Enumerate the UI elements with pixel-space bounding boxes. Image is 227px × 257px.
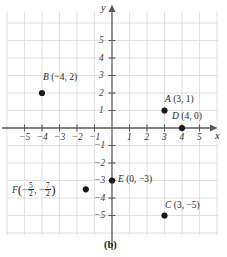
- x-tick-label-4: 4: [180, 133, 185, 143]
- data-point-C: [161, 212, 167, 218]
- point-label-D-name: D: [172, 111, 179, 121]
- y-tick-label-3: 3: [99, 71, 104, 81]
- point-label-F-fraction-2: 72: [45, 182, 51, 199]
- y-axis-label: y: [101, 3, 106, 14]
- x-tick-label--2: −2: [72, 133, 83, 143]
- point-label-A: A (3, 1): [165, 95, 194, 105]
- point-label-E-coords: (0, −3): [126, 174, 152, 184]
- x-tick-label-5: 5: [197, 133, 202, 143]
- point-label-F-close-paren: ): [51, 182, 55, 197]
- figure-caption: (b): [104, 240, 117, 251]
- x-tick-label--4: −4: [37, 133, 48, 143]
- y-tick-label--5: −5: [94, 211, 105, 221]
- point-label-C: C (3, −5): [165, 201, 200, 211]
- x-axis-label: x: [215, 131, 220, 142]
- y-tick-label--4: −4: [94, 194, 105, 204]
- grid-and-axes-svg: [0, 0, 227, 257]
- point-label-F-minus-2: −: [39, 185, 44, 195]
- point-label-F-fraction-1: 52: [28, 182, 34, 199]
- coordinate-plane-figure: −5 −4 −3 −2 −1 1 2 3 4 5 5 4 3 2 1 −1 −2…: [0, 0, 227, 257]
- y-tick-label-5: 5: [99, 36, 104, 46]
- y-tick-label--2: −2: [94, 159, 105, 169]
- point-label-F-name: F: [12, 185, 18, 195]
- point-label-E: E (0, −3): [118, 175, 152, 185]
- y-tick-label-2: 2: [99, 89, 104, 99]
- data-point-B: [39, 90, 45, 96]
- x-tick-label-2: 2: [145, 133, 150, 143]
- point-label-A-coords: (3, 1): [173, 94, 194, 104]
- y-tick-label-4: 4: [99, 54, 104, 64]
- x-tick-label-1: 1: [127, 133, 132, 143]
- fraction-2-denominator: 2: [45, 189, 51, 198]
- y-tick-label-1: 1: [99, 106, 104, 116]
- data-point-F: [83, 186, 89, 192]
- point-label-F-open-paren: (: [18, 182, 22, 197]
- data-point-A: [161, 107, 167, 113]
- fraction-1-numerator: 5: [28, 182, 34, 190]
- x-tick-label--3: −3: [54, 133, 65, 143]
- point-label-F-minus-1: −: [22, 185, 27, 195]
- x-tick-label-3: 3: [162, 133, 167, 143]
- fraction-1-denominator: 2: [28, 189, 34, 198]
- point-label-D: D (4, 0): [172, 112, 202, 122]
- y-tick-label--1: −1: [94, 141, 105, 151]
- y-axis-arrowhead: [109, 5, 116, 13]
- point-label-C-coords: (3, −5): [174, 200, 200, 210]
- plot-area: −5 −4 −3 −2 −1 1 2 3 4 5 5 4 3 2 1 −1 −2…: [0, 0, 227, 257]
- point-label-D-coords: (4, 0): [181, 111, 202, 121]
- point-label-B: B (−4, 2): [43, 73, 77, 83]
- data-point-E: [109, 177, 115, 183]
- x-tick-label--5: −5: [19, 133, 30, 143]
- point-label-B-coords: (−4, 2): [51, 72, 77, 82]
- fraction-2-numerator: 7: [45, 182, 51, 190]
- point-label-F: F(−52, −72): [12, 182, 55, 199]
- data-point-D: [179, 125, 185, 131]
- y-tick-label--3: −3: [94, 176, 105, 186]
